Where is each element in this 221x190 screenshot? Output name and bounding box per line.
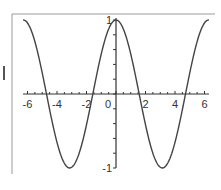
x-tick-label: 6 [201, 98, 207, 110]
axes [23, 18, 209, 168]
x-tick-label: 2 [142, 98, 148, 110]
x-tick-label: 4 [172, 98, 178, 110]
cosine-plot: -6-4-20246-11 [0, 0, 221, 190]
x-tick-label: -6 [23, 98, 33, 110]
y-tick-label: -1 [102, 162, 112, 174]
x-tick-label: 0 [105, 98, 111, 110]
x-tick-label: -4 [52, 98, 62, 110]
